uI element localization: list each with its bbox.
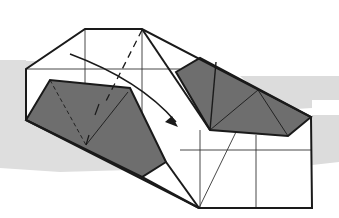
origami-diagram <box>0 0 339 218</box>
